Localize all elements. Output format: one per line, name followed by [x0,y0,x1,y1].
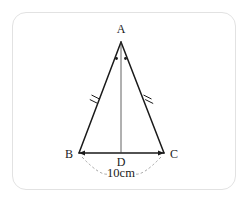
dimension-label: 10cm [107,166,135,180]
side-AB [79,42,121,153]
vertex-label-C: C [170,147,178,161]
vertex-label-A: A [117,22,126,36]
vertex-label-B: B [65,147,73,161]
side-AC [121,42,164,153]
geometry-diagram: A B C D 10cm [0,0,248,201]
